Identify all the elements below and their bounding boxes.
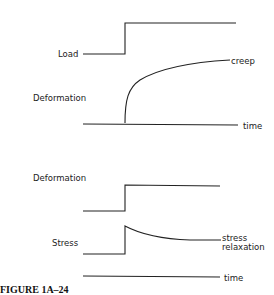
relaxation-panel: Deformation Stress stress relaxation tim… [33, 173, 265, 283]
deformation-step-line [83, 185, 220, 211]
figure-caption: FIGURE 1A–24 [0, 284, 69, 295]
time-axis [83, 124, 238, 125]
stress-relaxation-curve [83, 226, 221, 254]
deformation-label: Deformation [33, 93, 86, 103]
deformation-label: Deformation [33, 173, 86, 183]
load-step-line [83, 23, 236, 54]
creep-relaxation-diagram: Load creep Deformation time Deformation … [0, 0, 274, 295]
creep-curve [125, 60, 230, 123]
creep-panel: Load creep Deformation time [33, 23, 262, 131]
creep-label: creep [231, 56, 255, 66]
time-axis [83, 276, 220, 277]
relaxation-label-line2: relaxation [222, 242, 265, 252]
time-label: time [224, 273, 243, 283]
load-label: Load [58, 49, 78, 59]
time-label: time [243, 121, 262, 131]
stress-label: Stress [52, 238, 79, 248]
